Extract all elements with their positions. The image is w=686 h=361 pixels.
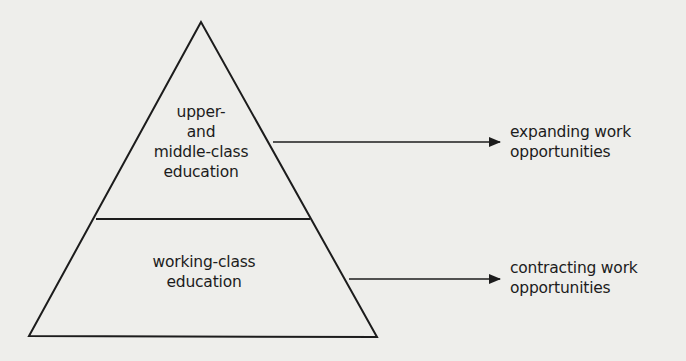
tier-label-line: middle-class: [154, 142, 249, 162]
outcome-label-line: opportunities: [510, 278, 638, 298]
outcome-label-line: contracting work: [510, 258, 638, 278]
outcome-label-line: expanding work: [510, 122, 631, 142]
pyramid-diagram-graphic: [0, 0, 686, 361]
outcome-label-expanding: expanding work opportunities: [510, 122, 631, 162]
tier-label-line: upper-: [154, 102, 249, 122]
tier-label-line: education: [153, 272, 256, 292]
tier-label-line: education: [154, 162, 249, 182]
outcome-label-contracting: contracting work opportunities: [510, 258, 638, 298]
tier-label-upper-middle: upper- and middle-class education: [154, 102, 249, 182]
tier-label-line: and: [154, 122, 249, 142]
outcome-label-line: opportunities: [510, 142, 631, 162]
tier-label-working: working-class education: [153, 252, 256, 292]
tier-label-line: working-class: [153, 252, 256, 272]
diagram-stage: upper- and middle-class education workin…: [0, 0, 686, 361]
